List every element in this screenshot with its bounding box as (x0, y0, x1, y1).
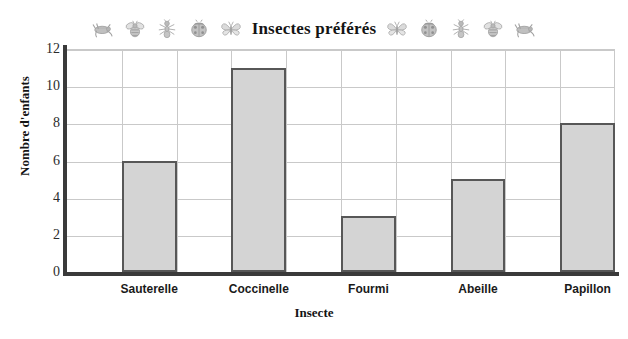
bee-icon (482, 19, 504, 39)
ladybug-icon (418, 19, 440, 39)
x-tick-label-sauterelle: Sauterelle (121, 282, 178, 296)
y-axis-line (63, 45, 67, 274)
gridline-vertical (396, 50, 397, 273)
y-tick-label: 0 (26, 264, 60, 280)
bar-papillon (560, 123, 615, 272)
gridline-vertical (286, 50, 287, 273)
bar-abeille (451, 179, 506, 272)
plot-area (67, 49, 615, 272)
y-tick-label: 4 (26, 190, 60, 206)
butterfly-icon (386, 19, 408, 39)
gridline-vertical (177, 50, 178, 273)
y-tick-label: 10 (26, 78, 60, 94)
y-axis-tick-labels: 024681012 (20, 49, 60, 272)
y-tick-label: 12 (26, 41, 60, 57)
x-tick-label-papillon: Papillon (564, 282, 611, 296)
ant-icon (450, 19, 472, 39)
grasshopper-icon (92, 19, 114, 39)
x-tick-label-coccinelle: Coccinelle (229, 282, 289, 296)
y-tick-label: 8 (26, 115, 60, 131)
bar-fourmi (341, 216, 396, 272)
right-icon-strip (386, 19, 536, 39)
grasshopper-icon (514, 19, 536, 39)
chart-title-row: Insectes préférés (0, 14, 628, 44)
bee-icon (124, 19, 146, 39)
x-axis-title: Insecte (0, 305, 628, 321)
bar-coccinelle (231, 68, 286, 272)
chart-title: Insectes préférés (242, 19, 387, 39)
ant-icon (156, 19, 178, 39)
x-tick-label-fourmi: Fourmi (348, 282, 389, 296)
bar-sauterelle (122, 161, 177, 273)
bar-chart: Insectes préférés (0, 0, 628, 339)
gridline-vertical (505, 50, 506, 273)
y-tick-label: 2 (26, 227, 60, 243)
x-axis-line (63, 272, 619, 276)
ladybug-icon (188, 19, 210, 39)
left-icon-strip (92, 19, 242, 39)
butterfly-icon (220, 19, 242, 39)
y-tick-label: 6 (26, 153, 60, 169)
x-tick-label-abeille: Abeille (458, 282, 497, 296)
